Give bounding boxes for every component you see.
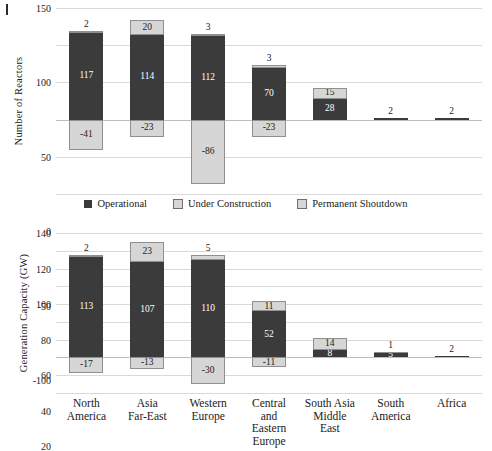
y-axis-tick-label: 100: [36, 299, 51, 310]
stacked-bar[interactable]: 117-41: [69, 31, 103, 150]
legend-label: Operational: [97, 198, 147, 209]
legend-label: Permanent Shoutdown: [312, 198, 407, 209]
x-axis-category-label: North America: [56, 397, 117, 449]
segment-operational[interactable]: 70: [252, 68, 286, 120]
segment-operational[interactable]: [435, 356, 469, 358]
bar-top-value-label: 2: [388, 106, 393, 116]
segment-under-construction[interactable]: 23: [130, 242, 164, 262]
segment-operational[interactable]: [374, 118, 408, 119]
bar-top-value-label: 2: [449, 344, 454, 354]
segment-operational[interactable]: [435, 118, 469, 119]
x-axis-category-label: Western Europe: [178, 397, 239, 449]
segment-operational[interactable]: 52: [252, 311, 286, 357]
chart-legend: OperationalUnder ConstructionPermanent S…: [0, 198, 492, 209]
segment-under-construction[interactable]: 11: [252, 301, 286, 311]
bar-category: 370-23: [239, 8, 300, 194]
segment-operational[interactable]: 117: [69, 33, 103, 120]
segment-permanent-shutdown[interactable]: -41: [69, 120, 103, 151]
segment-under-construction[interactable]: 15: [313, 88, 347, 99]
bar-category: 1152-11: [239, 233, 300, 393]
chart-generation-capacity: Generation Capacity (GW) 140120100806040…: [0, 233, 492, 393]
segment-permanent-shutdown[interactable]: -23: [130, 120, 164, 137]
stacked-bar[interactable]: 112-86: [191, 34, 225, 184]
legend-swatch-icon: [173, 199, 183, 209]
segment-operational[interactable]: 28: [313, 99, 347, 120]
x-axis-category-label: South America: [360, 397, 421, 449]
y-axis-label-reactors: Number of Reactors: [13, 57, 24, 146]
y-axis-tick-label: 20: [41, 441, 51, 451]
gridline: -40: [56, 393, 482, 394]
segment-permanent-shutdown[interactable]: -23: [252, 120, 286, 137]
bar-top-value-label: 1: [388, 340, 393, 350]
y-axis-label-capacity: Generation Capacity (GW): [18, 254, 29, 373]
x-axis-category-label: Africa: [421, 397, 482, 449]
legend-label: Under Construction: [188, 198, 271, 209]
bar-category: 1528: [299, 8, 360, 194]
bar-category: 2113-17: [56, 233, 117, 393]
x-axis-category-label: Asia Far-East: [117, 397, 178, 449]
x-axis-category-label: Central and Eastern Europe: [239, 397, 300, 449]
bar-category: 2: [421, 233, 482, 393]
stacked-bar[interactable]: 148: [313, 338, 347, 358]
bar-category: 3112-86: [178, 8, 239, 194]
y-axis-tick-label: 100: [36, 77, 51, 88]
legend-swatch-icon: [297, 199, 307, 209]
y-axis-tick-label: 80: [41, 334, 51, 345]
stacked-bar[interactable]: 70-23: [252, 65, 286, 136]
bar-category: 2117-41: [56, 8, 117, 194]
bar-group-capacity: 2113-1723107-135110-301152-11148152: [56, 233, 482, 393]
bar-top-value-label: 2: [449, 106, 454, 116]
legend-item[interactable]: Operational: [84, 198, 147, 209]
segment-under-construction[interactable]: 14: [313, 338, 347, 350]
y-axis-tick-label: 140: [36, 228, 51, 239]
stacked-bar[interactable]: 110-30: [191, 255, 225, 384]
segment-permanent-shutdown[interactable]: -86: [191, 120, 225, 184]
segment-permanent-shutdown[interactable]: -11: [252, 357, 286, 367]
bar-category: 15: [360, 233, 421, 393]
plot-area-capacity: 140120100806040200-20-40 2113-1723107-13…: [56, 233, 482, 393]
y-axis-tick-label: 120: [36, 263, 51, 274]
segment-operational[interactable]: 113: [69, 257, 103, 357]
y-axis-tick-label: 150: [36, 3, 51, 14]
bar-top-value-label: 2: [84, 243, 89, 253]
x-axis-category-label: South Asia Middle East: [299, 397, 360, 449]
stacked-bar[interactable]: 20114-23: [130, 20, 164, 137]
chart-number-of-reactors: Number of Reactors 150100500-50-100 2117…: [0, 8, 492, 194]
segment-permanent-shutdown[interactable]: -13: [130, 357, 164, 369]
bar-category: 148: [299, 233, 360, 393]
bar-category: 23107-13: [117, 233, 178, 393]
segment-operational[interactable]: 107: [130, 262, 164, 357]
segment-permanent-shutdown[interactable]: -17: [69, 357, 103, 372]
stacked-bar[interactable]: [435, 118, 469, 119]
bar-top-value-label: 5: [206, 243, 211, 253]
x-axis-category-labels: North AmericaAsia Far-EastWestern Europe…: [56, 397, 482, 449]
bar-top-value-label: 3: [267, 53, 272, 63]
legend-item[interactable]: Permanent Shoutdown: [297, 198, 407, 209]
stacked-bar[interactable]: [374, 118, 408, 119]
gridline: -100: [56, 194, 482, 195]
segment-operational[interactable]: 112: [191, 36, 225, 119]
stacked-bar[interactable]: [435, 356, 469, 358]
bar-category: 2: [360, 8, 421, 194]
bar-category: 5110-30: [178, 233, 239, 393]
stacked-bar[interactable]: 1528: [313, 88, 347, 120]
stacked-bar[interactable]: 23107-13: [130, 242, 164, 369]
segment-operational[interactable]: 5: [374, 353, 408, 357]
segment-under-construction[interactable]: 20: [130, 20, 164, 35]
stacked-bar[interactable]: 5: [374, 352, 408, 357]
y-axis-tick-label: 40: [41, 405, 51, 416]
plot-area-reactors: 150100500-50-100 2117-4120114-233112-863…: [56, 8, 482, 194]
bar-group-reactors: 2117-4120114-233112-86370-23152822: [56, 8, 482, 194]
stacked-bar[interactable]: 113-17: [69, 255, 103, 372]
segment-permanent-shutdown[interactable]: -30: [191, 357, 225, 384]
stacked-bar[interactable]: 1152-11: [252, 301, 286, 367]
segment-operational[interactable]: 114: [130, 35, 164, 120]
segment-operational[interactable]: 110: [191, 260, 225, 358]
legend-item[interactable]: Under Construction: [173, 198, 271, 209]
y-axis-tick-label: 60: [41, 370, 51, 381]
bar-category: 20114-23: [117, 8, 178, 194]
segment-operational[interactable]: 8: [313, 350, 347, 357]
bar-category: 2: [421, 8, 482, 194]
figure-page: Number of Reactors 150100500-50-100 2117…: [0, 0, 492, 451]
y-axis-tick-label: 50: [41, 151, 51, 162]
